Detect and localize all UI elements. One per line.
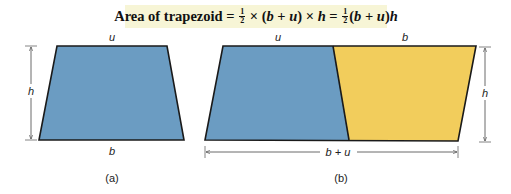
base-label-b: b + u bbox=[326, 146, 351, 158]
trapezoid-b-left bbox=[205, 46, 349, 140]
height-label-a: h bbox=[28, 85, 34, 97]
caption-b: (b) bbox=[334, 172, 347, 184]
figure-b: u b h b + u (b) bbox=[205, 31, 491, 184]
figure-a: h u b (a) bbox=[25, 31, 184, 184]
trapezoid-b-right bbox=[333, 46, 476, 141]
top-right-label-b: b bbox=[402, 31, 408, 43]
trapezoid-a bbox=[39, 46, 184, 140]
bottom-label-a: b bbox=[109, 145, 115, 157]
trapezoid-diagram: h u b (a) u b h b + u (b) bbox=[0, 0, 511, 194]
height-label-b: h bbox=[482, 87, 488, 99]
caption-a: (a) bbox=[105, 172, 118, 184]
top-label-a: u bbox=[109, 31, 115, 43]
top-left-label-b: u bbox=[275, 31, 281, 43]
